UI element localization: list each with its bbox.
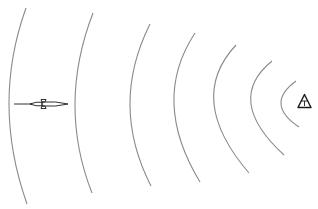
wave-arc-3 — [130, 24, 151, 186]
wave-arc-2 — [75, 13, 93, 193]
beacon-triangle-icon — [298, 95, 311, 108]
wave-arc-7 — [281, 81, 299, 127]
wave-arc-4 — [174, 33, 200, 182]
wave-arc-1 — [9, 8, 27, 204]
wave-arc-5 — [214, 45, 249, 173]
missile-icon — [14, 100, 68, 109]
wave-arc-6 — [251, 61, 284, 155]
signal-wave-diagram — [0, 0, 318, 209]
